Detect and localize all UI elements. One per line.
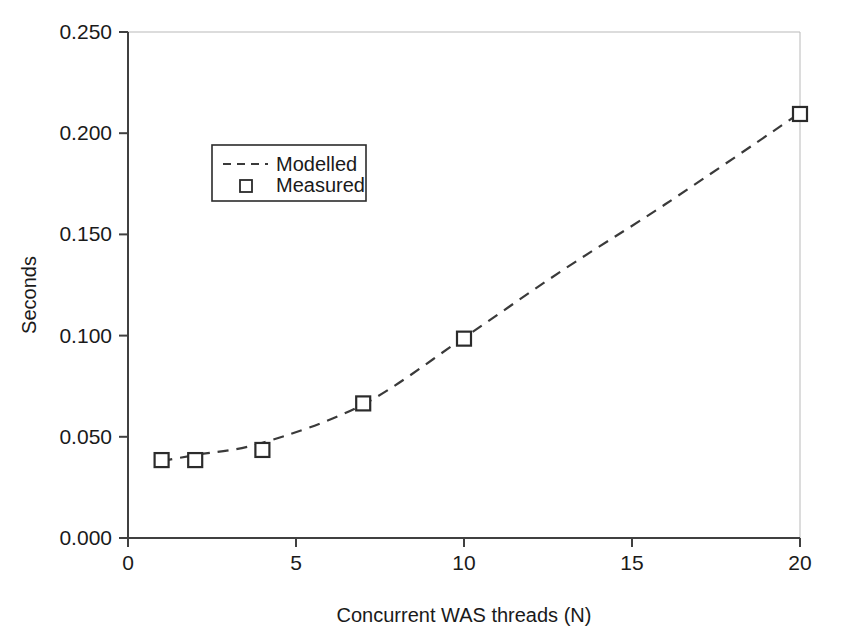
y-tick-label: 0.250 <box>59 20 112 43</box>
y-tick-label: 0.050 <box>59 425 112 448</box>
x-tick-label: 0 <box>122 551 134 574</box>
x-tick-label: 15 <box>620 551 643 574</box>
seconds-vs-threads-chart: 0.0000.0500.1000.1500.2000.250 05101520 … <box>0 0 841 643</box>
measured-data-point <box>793 107 807 121</box>
y-tick-label: 0.100 <box>59 324 112 347</box>
y-tick-label: 0.200 <box>59 121 112 144</box>
x-tick-label: 5 <box>290 551 302 574</box>
chart-container: 0.0000.0500.1000.1500.2000.250 05101520 … <box>0 0 841 643</box>
measured-data-point <box>457 332 471 346</box>
measured-data-point <box>356 396 370 410</box>
legend-label-modelled: Modelled <box>276 153 357 175</box>
y-tick-label: 0.150 <box>59 222 112 245</box>
measured-data-point <box>255 443 269 457</box>
measured-data-point <box>188 453 202 467</box>
x-axis-title: Concurrent WAS threads (N) <box>337 604 592 626</box>
chart-background <box>0 0 841 643</box>
x-tick-label: 10 <box>452 551 475 574</box>
y-axis-title: Seconds <box>18 256 40 334</box>
x-tick-label: 20 <box>788 551 811 574</box>
measured-data-point <box>155 453 169 467</box>
chart-legend: Modelled Measured <box>212 145 366 201</box>
legend-label-measured: Measured <box>276 174 365 196</box>
y-tick-label: 0.000 <box>59 526 112 549</box>
legend-open-square-icon <box>240 180 252 192</box>
